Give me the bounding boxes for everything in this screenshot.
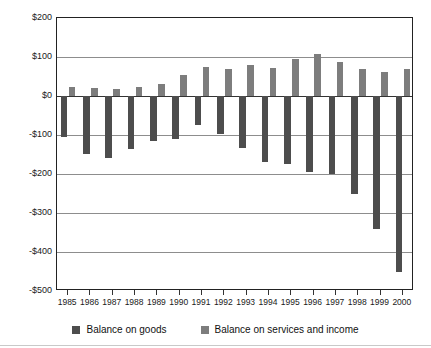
bar-services-2000 — [404, 69, 411, 96]
legend-item-services[interactable]: Balance on services and income — [201, 325, 359, 335]
bar-group-1985 — [57, 18, 79, 289]
bar-goods-1990 — [172, 96, 179, 139]
x-axis-tick-label: 2000 — [389, 297, 415, 307]
x-axis-tick — [67, 290, 68, 295]
x-axis-tick — [357, 290, 358, 295]
x-axis-tick — [179, 290, 180, 295]
bar-goods-1992 — [217, 96, 224, 134]
legend-item-goods[interactable]: Balance on goods — [72, 325, 166, 335]
bar-group-1986 — [79, 18, 101, 289]
bar-goods-1996 — [306, 96, 313, 172]
bar-goods-1998 — [351, 96, 358, 194]
bar-services-1988 — [136, 87, 143, 96]
bar-goods-1985 — [61, 96, 68, 137]
bar-goods-2000 — [396, 96, 403, 272]
x-axis-tick — [134, 290, 135, 295]
y-axis-tick-label: -$300 — [4, 208, 52, 217]
y-axis-tick-label: $0 — [4, 91, 52, 100]
bar-services-1985 — [69, 87, 76, 96]
bar-services-1997 — [337, 62, 344, 96]
services-swatch-icon — [201, 326, 209, 334]
bar-goods-1988 — [128, 96, 135, 149]
legend-label: Balance on services and income — [215, 325, 359, 335]
bar-services-1999 — [381, 72, 388, 96]
bar-group-1999 — [369, 18, 391, 289]
y-axis-tick-label: $200 — [4, 13, 52, 22]
bar-goods-1995 — [284, 96, 291, 164]
y-axis-tick-label: -$200 — [4, 169, 52, 178]
x-axis-tick — [246, 290, 247, 295]
bar-group-1997 — [325, 18, 347, 289]
y-axis-tick-label: $100 — [4, 52, 52, 61]
bar-services-1994 — [270, 68, 277, 96]
x-axis-tick — [268, 290, 269, 295]
chart-legend: Balance on goodsBalance on services and … — [0, 322, 431, 338]
bar-services-1995 — [292, 59, 299, 96]
legend-label: Balance on goods — [86, 325, 166, 335]
bar-goods-1994 — [262, 96, 269, 162]
bar-services-1987 — [113, 89, 120, 96]
bar-goods-1987 — [105, 96, 112, 158]
bar-chart-figure: $200$100$0-$100-$200-$300-$400-$500 1985… — [0, 0, 431, 348]
bar-group-1993 — [236, 18, 258, 289]
bar-group-1991 — [191, 18, 213, 289]
y-axis-tick-label: -$100 — [4, 130, 52, 139]
x-axis-tick — [201, 290, 202, 295]
bar-goods-1997 — [329, 96, 336, 174]
bar-group-1996 — [302, 18, 324, 289]
bar-group-1990 — [169, 18, 191, 289]
bar-services-1990 — [180, 75, 187, 96]
x-axis-tick — [335, 290, 336, 295]
x-axis-tick — [89, 290, 90, 295]
x-axis-tick — [156, 290, 157, 295]
bar-group-1987 — [102, 18, 124, 289]
bar-goods-1989 — [150, 96, 157, 141]
bar-group-1998 — [347, 18, 369, 289]
x-axis-tick — [313, 290, 314, 295]
bottom-divider — [0, 345, 431, 346]
bar-group-1995 — [280, 18, 302, 289]
bar-goods-1993 — [239, 96, 246, 148]
x-axis-tick — [223, 290, 224, 295]
bar-services-1991 — [203, 67, 210, 96]
bar-services-1998 — [359, 69, 366, 96]
goods-swatch-icon — [72, 326, 80, 334]
bar-goods-1986 — [83, 96, 90, 154]
bar-group-1989 — [146, 18, 168, 289]
bar-services-1986 — [91, 88, 98, 96]
bar-services-1992 — [225, 69, 232, 96]
bar-services-1993 — [247, 65, 254, 96]
bar-services-1989 — [158, 84, 165, 96]
bar-group-2000 — [392, 18, 414, 289]
bar-services-1996 — [314, 54, 321, 96]
bar-goods-1991 — [195, 96, 202, 125]
x-axis: 1985198619871988198919901991199219931994… — [56, 290, 413, 314]
x-axis-tick — [290, 290, 291, 295]
y-axis-tick-label: -$500 — [4, 286, 52, 295]
x-axis-tick — [112, 290, 113, 295]
bars-layer — [57, 18, 412, 289]
bar-group-1988 — [124, 18, 146, 289]
x-axis-tick — [380, 290, 381, 295]
x-axis-tick — [402, 290, 403, 295]
y-axis-tick-label: -$400 — [4, 247, 52, 256]
bar-goods-1999 — [373, 96, 380, 229]
bar-group-1992 — [213, 18, 235, 289]
bar-group-1994 — [258, 18, 280, 289]
plot-area — [56, 17, 413, 290]
